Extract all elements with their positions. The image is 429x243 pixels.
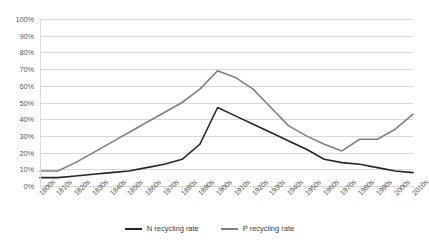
x-axis-tick-label: 1950s [303,177,323,197]
x-axis-tick-label: 1820s [72,177,92,197]
x-axis-tick-label: 1840s [108,177,128,197]
x-axis-tick-label: 1860s [143,177,163,197]
x-axis-tick-label: 1880s [179,177,199,197]
x-axis-tick-label: 2000s [392,177,412,197]
legend-swatch-icon [125,228,142,230]
x-axis-tick-label: 1990s [374,177,394,197]
x-axis-tick-label: 1910s [232,177,252,197]
legend-label: P recycling rate [243,224,294,233]
x-axis-tick-label: 1850s [125,177,145,197]
x-axis-tick-label: 1830s [90,177,110,197]
x-axis-tick-label: 1890s [196,177,216,197]
x-axis-tick-label: 1900s [214,177,234,197]
x-axis-tick-label: 1930s [267,177,287,197]
x-axis-tick-label: 1870s [161,177,181,197]
legend-swatch-icon [221,228,238,230]
x-axis-tick-label: 1940s [285,177,305,197]
legend-item[interactable]: P recycling rate [221,224,294,233]
x-axis-tick-label: 1980s [356,177,376,197]
x-axis-tick-label: 1960s [321,177,341,197]
x-axis-tick-label: 1970s [338,177,358,197]
chart-legend: N recycling rateP recycling rate [0,224,419,233]
x-axis-tick-label: 1810s [54,177,74,197]
x-axis-tick-label: 1920s [250,177,270,197]
x-axis-tick-label: 2010s [410,177,429,197]
legend-item[interactable]: N recycling rate [125,224,199,233]
legend-label: N recycling rate [147,224,199,233]
x-axis-tick-label: 1800s [37,177,57,197]
